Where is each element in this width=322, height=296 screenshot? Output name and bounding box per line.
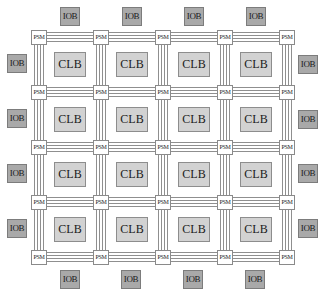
h-wire-r4-s2	[171, 252, 217, 263]
clb-r0-c0: CLB	[54, 52, 86, 77]
h-wire-r0-s3	[233, 32, 279, 43]
psm-r0-c4: PSM	[279, 30, 295, 45]
psm-r2-c3: PSM	[217, 140, 233, 155]
clb-r1-c2: CLB	[178, 107, 210, 132]
psm-r3-c3: PSM	[217, 195, 233, 210]
iob-bottom-3: IOB	[245, 270, 265, 289]
clb-r1-c0: CLB	[54, 107, 86, 132]
v-wire-c2-s1	[158, 99, 169, 140]
h-wire-r3-s2	[171, 197, 217, 208]
v-wire-c3-s1	[220, 99, 231, 140]
psm-r4-c2: PSM	[155, 250, 171, 265]
psm-r4-c1: PSM	[93, 250, 109, 265]
iob-left-3: IOB	[7, 219, 27, 238]
v-wire-c2-s2	[158, 154, 169, 195]
h-wire-r3-s3	[233, 197, 279, 208]
iob-top-1: IOB	[122, 7, 142, 26]
iob-right-2: IOB	[298, 164, 318, 183]
psm-r3-c2: PSM	[155, 195, 171, 210]
clb-r1-c1: CLB	[116, 107, 148, 132]
clb-r0-c1: CLB	[116, 52, 148, 77]
psm-r0-c0: PSM	[31, 30, 47, 45]
h-wire-r0-s2	[171, 32, 217, 43]
iob-left-2: IOB	[7, 164, 27, 183]
psm-r1-c3: PSM	[217, 85, 233, 100]
v-wire-c4-s1	[282, 99, 293, 140]
clb-r2-c2: CLB	[178, 162, 210, 187]
v-wire-c1-s1	[96, 99, 107, 140]
h-wire-r2-s1	[109, 142, 155, 153]
iob-right-0: IOB	[298, 55, 318, 74]
psm-r4-c3: PSM	[217, 250, 233, 265]
v-wire-c0-s0	[34, 44, 45, 85]
v-wire-c2-s3	[158, 209, 169, 250]
iob-bottom-1: IOB	[121, 270, 141, 289]
psm-r0-c3: PSM	[217, 30, 233, 45]
clb-r3-c3: CLB	[240, 217, 272, 242]
v-wire-c0-s3	[34, 209, 45, 250]
psm-r2-c4: PSM	[279, 140, 295, 155]
h-wire-r1-s0	[47, 87, 93, 98]
v-wire-c4-s2	[282, 154, 293, 195]
v-wire-c4-s0	[282, 44, 293, 85]
psm-r1-c4: PSM	[279, 85, 295, 100]
iob-top-2: IOB	[184, 7, 204, 26]
h-wire-r0-s1	[109, 32, 155, 43]
v-wire-c2-s0	[158, 44, 169, 85]
psm-r2-c1: PSM	[93, 140, 109, 155]
v-wire-c3-s3	[220, 209, 231, 250]
psm-r0-c1: PSM	[93, 30, 109, 45]
clb-r3-c1: CLB	[116, 217, 148, 242]
v-wire-c4-s3	[282, 209, 293, 250]
psm-r3-c1: PSM	[93, 195, 109, 210]
psm-r2-c2: PSM	[155, 140, 171, 155]
v-wire-c1-s3	[96, 209, 107, 250]
h-wire-r3-s1	[109, 197, 155, 208]
iob-right-1: IOB	[298, 110, 318, 129]
v-wire-c3-s0	[220, 44, 231, 85]
psm-r2-c0: PSM	[31, 140, 47, 155]
psm-r4-c0: PSM	[31, 250, 47, 265]
v-wire-c1-s2	[96, 154, 107, 195]
h-wire-r0-s0	[47, 32, 93, 43]
v-wire-c3-s2	[220, 154, 231, 195]
h-wire-r2-s3	[233, 142, 279, 153]
psm-r1-c2: PSM	[155, 85, 171, 100]
iob-top-3: IOB	[246, 7, 266, 26]
clb-r2-c0: CLB	[54, 162, 86, 187]
h-wire-r3-s0	[47, 197, 93, 208]
psm-r3-c4: PSM	[279, 195, 295, 210]
h-wire-r1-s3	[233, 87, 279, 98]
h-wire-r1-s2	[171, 87, 217, 98]
h-wire-r4-s3	[233, 252, 279, 263]
iob-left-1: IOB	[7, 109, 27, 128]
iob-right-3: IOB	[298, 219, 318, 238]
h-wire-r4-s1	[109, 252, 155, 263]
v-wire-c1-s0	[96, 44, 107, 85]
iob-left-0: IOB	[7, 54, 27, 73]
clb-r0-c3: CLB	[240, 52, 272, 77]
iob-bottom-0: IOB	[60, 270, 80, 289]
v-wire-c0-s1	[34, 99, 45, 140]
v-wire-c0-s2	[34, 154, 45, 195]
psm-r1-c0: PSM	[31, 85, 47, 100]
clb-r2-c1: CLB	[116, 162, 148, 187]
h-wire-r1-s1	[109, 87, 155, 98]
clb-r0-c2: CLB	[178, 52, 210, 77]
iob-bottom-2: IOB	[183, 270, 203, 289]
clb-r3-c0: CLB	[54, 217, 86, 242]
clb-r2-c3: CLB	[240, 162, 272, 187]
h-wire-r2-s2	[171, 142, 217, 153]
clb-r3-c2: CLB	[178, 217, 210, 242]
clb-r1-c3: CLB	[240, 107, 272, 132]
psm-r0-c2: PSM	[155, 30, 171, 45]
psm-r1-c1: PSM	[93, 85, 109, 100]
fpga-diagram: PSM PSM PSM PSM PSM PSM PSM PSM PSM PSM …	[0, 0, 322, 296]
h-wire-r4-s0	[47, 252, 93, 263]
psm-r4-c4: PSM	[279, 250, 295, 265]
h-wire-r2-s0	[47, 142, 93, 153]
iob-top-0: IOB	[60, 7, 80, 26]
psm-r3-c0: PSM	[31, 195, 47, 210]
